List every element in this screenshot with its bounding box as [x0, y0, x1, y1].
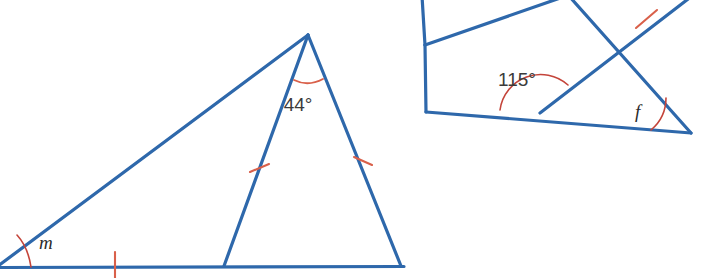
left-figure-inner-left-leg [224, 35, 308, 266]
left-figure-group: 44° m [0, 35, 404, 278]
angle-label-44: 44° [284, 94, 313, 115]
angle-label-f: f [635, 101, 643, 122]
angle-label-m: m [39, 232, 53, 253]
angle-label-115: 115° [498, 69, 536, 90]
right-figure-left-edge-lower [425, 45, 426, 112]
right-figure-left-edge-upper [422, 0, 425, 45]
right-figure-transversal-b [540, 0, 692, 113]
geometry-figure-canvas: 44° m 115° f [0, 0, 705, 278]
tick-mark-right-side [354, 157, 372, 165]
right-figure-upper-diagonal [425, 0, 566, 45]
geometry-svg: 44° m 115° f [0, 0, 705, 278]
left-figure-baseline [0, 267, 404, 268]
right-figure-group: 115° f [422, 0, 692, 133]
left-figure-right-side [308, 35, 401, 266]
angle-arc-apex [294, 79, 323, 83]
right-figure-transversal-a [569, 0, 691, 133]
